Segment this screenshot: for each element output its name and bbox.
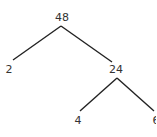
- node-48: 48: [55, 12, 69, 24]
- node-2: 2: [6, 64, 13, 76]
- factor-tree: 48 2 24 4 6: [0, 0, 156, 137]
- node-6: 6: [153, 115, 157, 127]
- edge-48-24: [61, 26, 112, 62]
- node-24: 24: [109, 64, 123, 76]
- edge-24-4: [80, 78, 117, 111]
- edge-48-2: [13, 26, 61, 60]
- node-4: 4: [75, 115, 82, 127]
- edge-24-6: [117, 78, 154, 111]
